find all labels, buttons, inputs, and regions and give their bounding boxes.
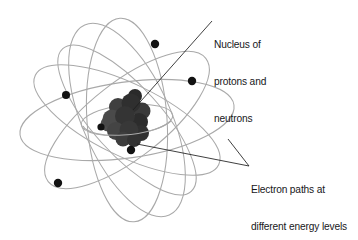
nucleus-label-line-2: protons and bbox=[214, 76, 266, 88]
electron-paths-label: Electron paths at different energy level… bbox=[251, 159, 347, 240]
nucleus-label-line-1: Nucleus of bbox=[214, 39, 266, 51]
electron-paths-label-line-2: different energy levels bbox=[251, 221, 347, 233]
electron bbox=[188, 77, 196, 85]
electron bbox=[54, 179, 62, 187]
nucleus-label: Nucleus of protons and neutrons bbox=[214, 14, 266, 150]
electron bbox=[151, 40, 159, 48]
electron bbox=[62, 91, 70, 99]
electron bbox=[97, 123, 104, 130]
nucleus-cluster bbox=[101, 89, 151, 147]
electron-paths-label-line-1: Electron paths at bbox=[251, 184, 347, 196]
electron bbox=[127, 146, 135, 154]
atom-diagram: Nucleus of protons and neutrons Electron… bbox=[0, 0, 358, 240]
nucleus-label-line-3: neutrons bbox=[214, 113, 266, 125]
